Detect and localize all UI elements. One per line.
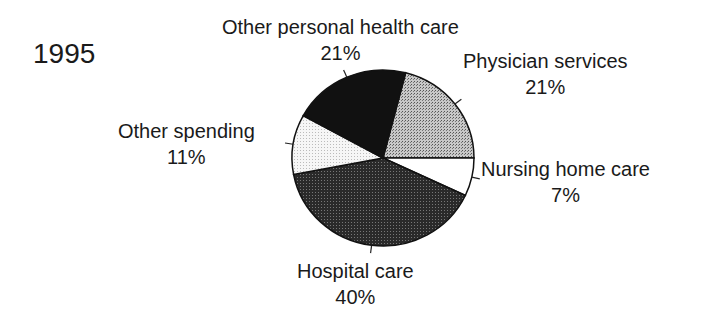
label-physician-services: Physician services 21% — [463, 48, 628, 100]
label-nursing-home-care: Nursing home care 7% — [481, 156, 650, 208]
label-hospital-care: Hospital care 40% — [297, 258, 414, 310]
label-other-personal-health-care: Other personal health care 21% — [222, 14, 459, 66]
label-other-spending: Other spending 11% — [118, 118, 255, 170]
